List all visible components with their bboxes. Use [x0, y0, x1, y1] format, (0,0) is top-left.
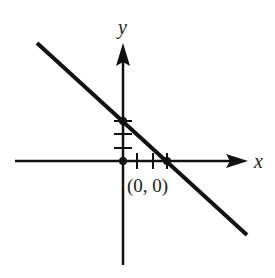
graph-line [37, 43, 247, 235]
x-axis-label: x [253, 150, 263, 172]
origin-label: (0, 0) [127, 175, 168, 197]
x-axis [15, 154, 248, 168]
origin-point [119, 157, 127, 165]
y-intercept-point [119, 117, 127, 125]
coordinate-plane: y x (0, 0) [0, 0, 275, 278]
y-axis-label: y [116, 16, 127, 39]
x-intercept-point [163, 157, 171, 165]
y-axis [116, 43, 130, 265]
